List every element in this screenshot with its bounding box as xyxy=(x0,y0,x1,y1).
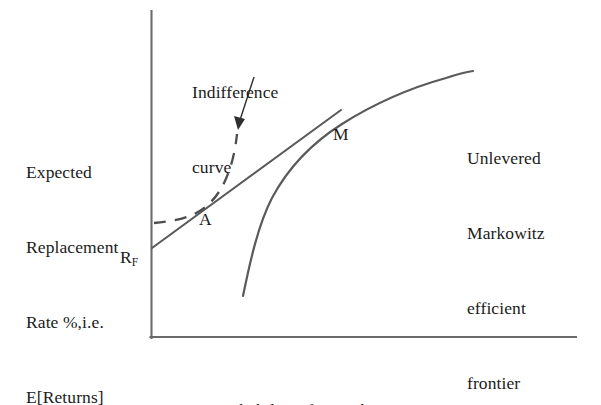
y-axis-label-line-2: Replacement xyxy=(26,235,118,260)
efficient-frontier-callout-label: Unlevered Markowitz efficient frontier xyxy=(467,96,545,405)
x-axis-label-line-1: Probability of not achieving xyxy=(215,398,414,405)
indifference-callout-line-2: curve xyxy=(192,155,278,180)
y-axis-label-line-3: Rate %,i.e. xyxy=(26,310,118,335)
indifference-callout-line-1: Indifference xyxy=(192,80,278,105)
point-label-a: A xyxy=(199,209,212,230)
efficient-frontier-figure: Expected Replacement Rate %,i.e. E[Retur… xyxy=(0,0,601,405)
y-axis-label-line-4: E[Returns] xyxy=(26,385,118,405)
x-axis-label: Probability of not achieving a replaceme… xyxy=(215,348,414,405)
risk-free-rate-label: RF xyxy=(120,247,138,268)
risk-free-rate-symbol: R xyxy=(120,247,132,267)
y-axis-label: Expected Replacement Rate %,i.e. E[Retur… xyxy=(26,110,118,405)
y-axis-label-line-1: Expected xyxy=(26,160,118,185)
risk-free-rate-subscript: F xyxy=(132,256,138,268)
frontier-callout-line-1: Unlevered xyxy=(467,146,545,171)
frontier-callout-line-3: efficient xyxy=(467,296,545,321)
frontier-callout-line-2: Markowitz xyxy=(467,221,545,246)
indifference-curve-callout-label: Indifference curve xyxy=(192,30,278,230)
frontier-callout-line-4: frontier xyxy=(467,371,545,396)
point-label-m: M xyxy=(333,124,349,145)
